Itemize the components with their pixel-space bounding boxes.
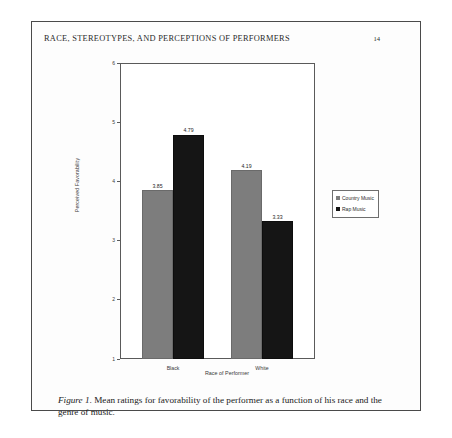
- legend-item-country[interactable]: Country Music: [336, 195, 374, 201]
- y-axis-ticks: 6 5 4 3 2: [107, 63, 120, 359]
- figure-label: Figure 1: [58, 395, 90, 405]
- bar-value-label: 4.79: [183, 128, 193, 133]
- y-axis-title: Perceived Favorability: [74, 130, 80, 240]
- running-head-title: RACE, STEREOTYPES, AND PERCEPTIONS OF PE…: [44, 34, 290, 43]
- y-tick-label: 6: [112, 61, 115, 66]
- document-page: RACE, STEREOTYPES, AND PERCEPTIONS OF PE…: [31, 21, 421, 411]
- bar-value-label: 3.85: [152, 184, 162, 189]
- legend-swatch-icon: [336, 207, 340, 211]
- bar-value-label: 4.19: [241, 164, 251, 169]
- legend-item-rap[interactable]: Rap Music: [336, 206, 374, 212]
- page-number: 14: [373, 35, 408, 42]
- bar-black-rap[interactable]: 4.79: [173, 135, 204, 359]
- x-axis-title: Race of Performer: [44, 370, 410, 376]
- y-tick-label: 3: [112, 238, 115, 243]
- bar-white-country[interactable]: 4.19: [231, 170, 262, 359]
- y-tick-label: 2: [112, 297, 115, 302]
- running-head: RACE, STEREOTYPES, AND PERCEPTIONS OF PE…: [44, 34, 408, 48]
- y-tick-label: 5: [112, 120, 115, 125]
- figure-block: Perceived Favorability 6 5 4: [44, 54, 408, 400]
- bar-black-country[interactable]: 3.85: [142, 190, 173, 359]
- figure-caption-text: . Mean ratings for favorability of the p…: [58, 395, 382, 417]
- plot-wrapper: 6 5 4 3 2: [120, 63, 315, 359]
- legend-label-country: Country Music: [342, 195, 374, 201]
- bar-chart: Perceived Favorability 6 5 4: [44, 54, 410, 384]
- legend-swatch-icon: [336, 196, 340, 200]
- bar-value-label: 3.33: [272, 215, 282, 220]
- figure-caption: Figure 1. Mean ratings for favorability …: [58, 395, 400, 419]
- bars-group: 3.85 4.79 4.19 3.33: [120, 63, 315, 359]
- chart-legend: Country Music Rap Music: [332, 190, 379, 218]
- y-tick-label: 1: [112, 357, 115, 362]
- y-tick-label: 4: [112, 179, 115, 184]
- bar-white-rap[interactable]: 3.33: [262, 221, 293, 359]
- legend-label-rap: Rap Music: [342, 206, 366, 212]
